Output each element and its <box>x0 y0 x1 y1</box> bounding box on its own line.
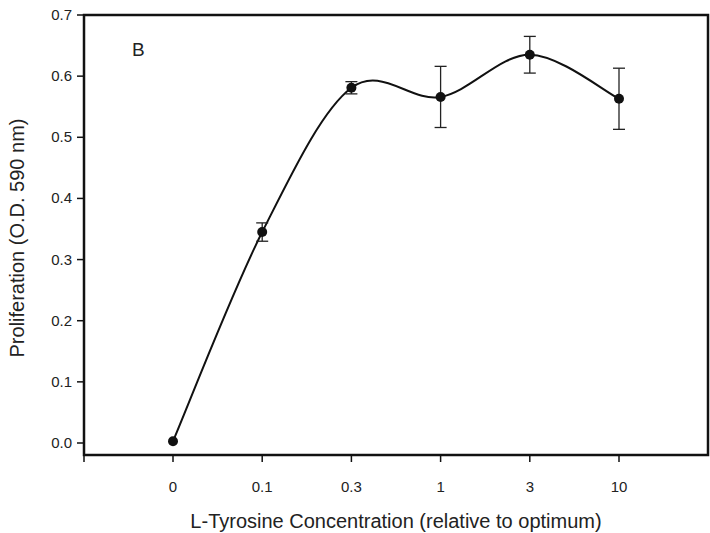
y-tick-label: 0.4 <box>51 189 72 206</box>
axes-frame <box>84 15 708 455</box>
line-chart: 0.00.10.20.30.40.50.60.7 00.10.31310 B L… <box>0 0 710 533</box>
y-tick-label: 0.7 <box>51 6 72 23</box>
data-point-marker <box>168 436 178 446</box>
data-point-marker <box>436 92 446 102</box>
x-axis-ticks: 00.10.31310 <box>84 455 627 495</box>
data-point-marker <box>614 94 624 104</box>
x-tick-label: 0.1 <box>252 478 273 495</box>
data-curve <box>173 55 619 441</box>
x-axis-title: L-Tyrosine Concentration (relative to op… <box>190 510 601 532</box>
y-tick-label: 0.3 <box>51 251 72 268</box>
y-axis-ticks: 0.00.10.20.30.40.50.60.7 <box>51 6 84 451</box>
y-tick-label: 0.2 <box>51 312 72 329</box>
x-tick-label: 0.3 <box>341 478 362 495</box>
y-tick-label: 0.5 <box>51 128 72 145</box>
data-point-marker <box>525 50 535 60</box>
panel-label: B <box>132 39 145 60</box>
data-point-marker <box>257 227 267 237</box>
data-points <box>168 50 624 446</box>
y-axis-title: Proliferation (O.D. 590 nm) <box>6 119 28 358</box>
y-tick-label: 0.0 <box>51 434 72 451</box>
x-tick-label: 10 <box>611 478 628 495</box>
x-tick-label: 0 <box>169 478 177 495</box>
data-point-marker <box>346 83 356 93</box>
x-tick-label: 1 <box>436 478 444 495</box>
plot-frame <box>84 15 708 455</box>
series-line <box>173 55 619 441</box>
y-tick-label: 0.1 <box>51 373 72 390</box>
y-tick-label: 0.6 <box>51 67 72 84</box>
x-tick-label: 3 <box>526 478 534 495</box>
